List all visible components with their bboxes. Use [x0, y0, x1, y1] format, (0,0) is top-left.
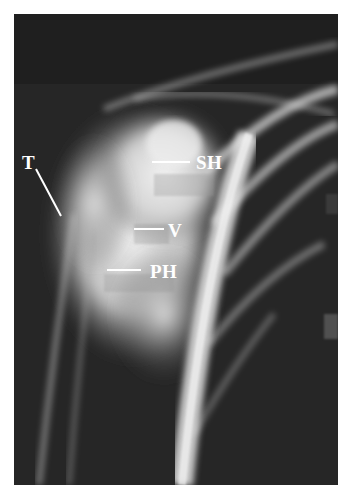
pointer-line-T [14, 14, 338, 485]
xray-image: T SH V PH [14, 14, 338, 485]
label-V: V [168, 221, 182, 240]
label-PH: PH [150, 262, 177, 281]
pointer-line-SH [152, 161, 190, 163]
pointer-line-V [134, 228, 164, 230]
label-SH: SH [196, 153, 222, 172]
pointer-line-PH [107, 269, 141, 271]
